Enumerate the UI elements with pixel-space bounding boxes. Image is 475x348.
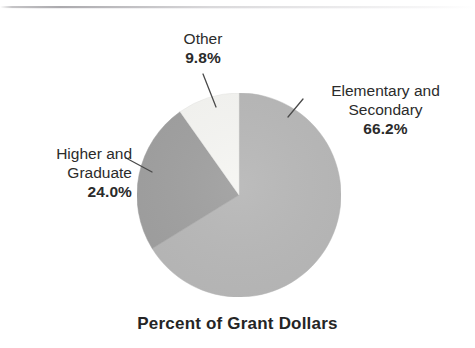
slice-label-other: Other 9.8% bbox=[155, 30, 251, 68]
slice-label-higher-name-line1: Higher and bbox=[8, 145, 132, 164]
scan-edge-artifact-secondary bbox=[0, 8, 475, 9]
slice-label-elementary-value: 66.2% bbox=[303, 120, 468, 139]
slice-label-other-name: Other bbox=[155, 30, 251, 49]
slice-label-higher-name-line2: Graduate bbox=[8, 164, 132, 183]
slice-label-higher-and-graduate: Higher and Graduate 24.0% bbox=[8, 145, 132, 202]
slice-label-other-value: 9.8% bbox=[155, 49, 251, 68]
chart-caption: Percent of Grant Dollars bbox=[0, 314, 475, 334]
slice-label-elementary-and-secondary: Elementary and Secondary 66.2% bbox=[303, 82, 468, 139]
slice-label-higher-value: 24.0% bbox=[8, 183, 132, 202]
pie-chart-figure: Other 9.8% Elementary and Secondary 66.2… bbox=[0, 0, 475, 348]
slice-label-elementary-name-line2: Secondary bbox=[303, 101, 468, 120]
slice-label-elementary-name-line1: Elementary and bbox=[303, 82, 468, 101]
